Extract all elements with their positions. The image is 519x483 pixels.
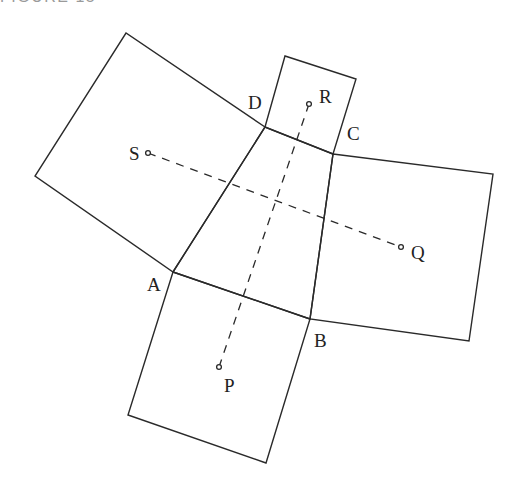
segment-sq: [148, 153, 401, 247]
point-p-marker: [217, 365, 222, 370]
geometry-diagram: A B C D P Q R S: [0, 0, 519, 483]
label-a: A: [147, 274, 161, 295]
label-r: R: [319, 86, 332, 107]
point-s-marker: [146, 151, 151, 156]
figure-caption: FIGURE 15: [0, 0, 96, 6]
label-b: B: [314, 330, 327, 351]
label-p: P: [224, 375, 235, 396]
point-q-marker: [399, 245, 404, 250]
segment-rp: [219, 104, 309, 367]
label-q: Q: [411, 242, 425, 263]
quadrilateral-abcd: [173, 127, 333, 319]
figure: FIGURE 15 A B C D: [0, 0, 519, 483]
label-c: C: [347, 123, 360, 144]
label-s: S: [129, 143, 140, 164]
point-r-marker: [307, 102, 312, 107]
label-d: D: [248, 92, 262, 113]
